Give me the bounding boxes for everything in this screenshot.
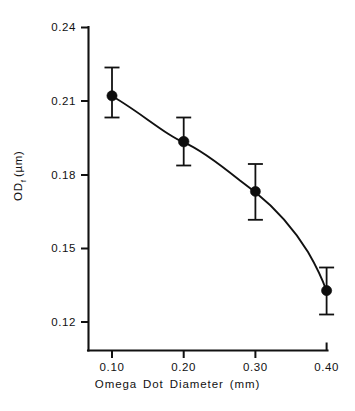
y-axis-title-subscript: f [19,180,28,182]
y-axis-title-unit: (µm) [12,150,24,177]
y-axis-title: ODf(µm) [12,116,27,236]
data-point-group-1 [105,68,120,118]
y-tick-label-0.12: 0.12 [18,316,76,328]
x-axis-title: Omega Dot Diameter (mm) [0,378,355,390]
data-point-group-3 [248,164,263,220]
data-point-group-2 [176,118,191,166]
data-point-group-4 [319,268,334,315]
data-point-marker [178,136,189,147]
x-tick-label-0.30: 0.30 [225,361,285,373]
fitted-curve [110,95,327,291]
chart-figure: 0.24 0.21 0.18 0.15 0.12 0.10 0.20 0.30 … [0,0,355,411]
data-point-marker [250,186,260,196]
y-tick-label-0.15: 0.15 [18,242,76,254]
x-tick-label-0.20: 0.20 [154,361,214,373]
x-tick-label-0.40: 0.40 [297,361,355,373]
data-point-marker [107,91,117,101]
y-tick-label-0.21: 0.21 [18,95,76,107]
plot-area [0,0,355,411]
data-point-marker [322,286,332,296]
y-axis-title-main: OD [12,182,24,201]
y-tick-label-0.24: 0.24 [18,21,76,33]
x-tick-label-0.10: 0.10 [82,361,142,373]
